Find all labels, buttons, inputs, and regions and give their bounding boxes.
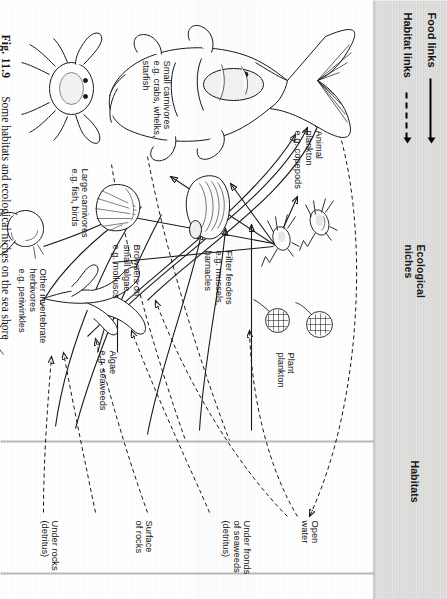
art-copepod-2	[257, 212, 303, 274]
art-mollusc	[89, 176, 145, 238]
figure-caption: Fig. 11.9 Some habitats and ecological n…	[0, 34, 11, 574]
habitat-label-open-water: Open water	[298, 520, 319, 543]
figure-number: Fig. 11.9	[0, 34, 11, 78]
art-crab	[17, 30, 129, 148]
niche-label-other-invertebrate-herbivores: Other invertebrate herbivores e.g. periw…	[16, 268, 47, 343]
habitat-label-under-rocks: Under rocks (detritus)	[38, 520, 59, 570]
niche-label-filter-feeders: Filter feeders e.g. mussels, barnacles	[202, 250, 233, 305]
art-plant-plankton-2	[249, 296, 295, 342]
art-mussel	[177, 172, 235, 244]
habitat-label-under-fronds: Under fronds of seaweeds (detritus)	[220, 520, 251, 574]
niche-label-algae: Algae e.g. seaweeds	[96, 350, 117, 410]
niche-label-plant-plankton: Plant plankton	[274, 352, 295, 387]
niche-label-small-carnivores: Small carnivores e.g. crabs, whelks, sta…	[140, 60, 171, 137]
rotated-figure-canvas: Food links Habitat links Ecological nich…	[0, 0, 447, 599]
niche-label-animal-plankton: Animal plankton e.g. copepods	[292, 130, 323, 188]
habitat-label-surface-of-rocks: Surface of rocks	[132, 520, 153, 553]
figure-page: Food links Habitat links Ecological nich…	[0, 0, 447, 599]
art-plant-plankton-1	[291, 300, 337, 346]
niche-label-large-carnivores: Large carnivores e.g. fish, birds	[68, 168, 89, 237]
niche-label-browsers: Browsers on small algae e.g. molluscs	[110, 244, 141, 298]
figure-caption-text: Some habitats and ecological niches on t…	[0, 96, 11, 339]
